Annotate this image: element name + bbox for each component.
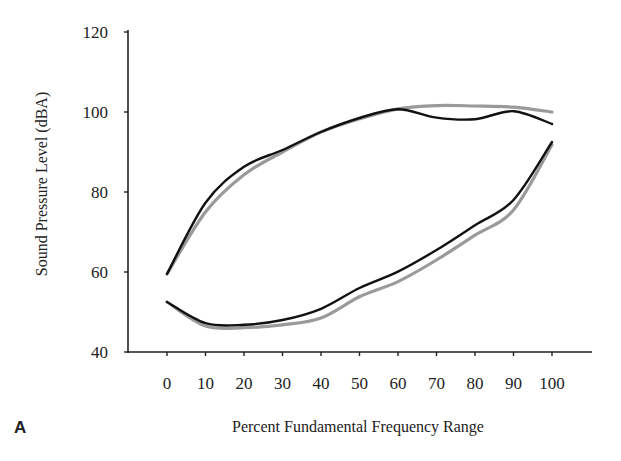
x-axis-title: Percent Fundamental Frequency Range (232, 418, 484, 436)
x-tick-label: 90 (505, 374, 522, 393)
x-tick-label: 60 (390, 374, 407, 393)
series-line-upper-contour-gray (167, 105, 552, 274)
y-tick-label: 120 (83, 23, 109, 42)
x-tick-label: 80 (467, 374, 484, 393)
x-tick-label: 100 (539, 374, 565, 393)
y-tick-label: 40 (91, 343, 108, 362)
x-tick-label: 30 (274, 374, 291, 393)
series-line-lower-contour-gray (167, 145, 552, 329)
x-tick-label: 10 (197, 374, 214, 393)
x-ticks: 0102030405060708090100 (163, 352, 565, 393)
x-tick-label: 0 (163, 374, 172, 393)
x-tick-label: 20 (236, 374, 253, 393)
panel-label: A (14, 418, 26, 437)
y-tick-label: 100 (83, 103, 109, 122)
y-ticks: 406080100120 (83, 23, 129, 362)
x-tick-label: 70 (428, 374, 445, 393)
x-tick-label: 50 (351, 374, 368, 393)
x-tick-label: 40 (313, 374, 330, 393)
y-tick-label: 80 (91, 183, 108, 202)
chart: 406080100120 0102030405060708090100 Soun… (0, 0, 621, 461)
y-tick-label: 60 (91, 263, 108, 282)
y-axis-title: Sound Pressure Level (dBA) (33, 92, 51, 276)
series-layer (167, 105, 552, 328)
